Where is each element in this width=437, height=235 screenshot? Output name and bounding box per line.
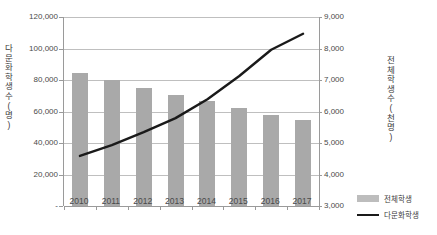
right-tick-label: 7,000 xyxy=(324,75,368,84)
left-tick-label: 100,000 xyxy=(14,44,58,53)
right-tick-label: 6,000 xyxy=(324,107,368,116)
chart-legend: 전체학생 다문화학생 xyxy=(357,193,419,225)
left-tick-mark xyxy=(59,206,63,207)
x-tick-mark xyxy=(96,206,97,210)
legend-item-line: 다문화학생 xyxy=(357,209,419,220)
x-tick-mark xyxy=(128,206,129,210)
left-tick-label: 60,000 xyxy=(14,107,58,116)
left-tick-label: 120,000 xyxy=(14,12,58,21)
x-tick-mark xyxy=(192,206,193,210)
x-tick-mark xyxy=(319,206,320,210)
legend-label-전체학생: 전체학생 xyxy=(384,193,412,204)
x-axis-label-2017: 2017 xyxy=(282,196,322,206)
left-axis-title: 다 문 화 학 생 수 ( 명 ) xyxy=(2,44,16,130)
legend-bar-swatch-icon xyxy=(357,195,379,202)
right-axis-title: 전 체 학 생 수 ( 천 명 ) xyxy=(384,56,398,142)
chart-container: 다 문 화 학 생 수 ( 명 ) 전 체 학 생 수 ( 천 명 ) -20,… xyxy=(0,0,437,235)
right-tick-label: 4,000 xyxy=(324,170,368,179)
left-tick-label: 80,000 xyxy=(14,75,58,84)
right-tick-label: 9,000 xyxy=(324,12,368,21)
left-tick-label: - xyxy=(14,201,58,210)
plot-area xyxy=(63,17,320,206)
right-tick-label: 5,000 xyxy=(324,138,368,147)
legend-item-bar: 전체학생 xyxy=(357,193,419,204)
left-tick-label: 20,000 xyxy=(14,170,58,179)
x-tick-mark xyxy=(255,206,256,210)
legend-line-swatch-icon xyxy=(357,214,379,216)
left-tick-label: 40,000 xyxy=(14,138,58,147)
x-tick-mark xyxy=(287,206,288,210)
x-tick-mark xyxy=(64,206,65,210)
right-tick-label: 8,000 xyxy=(324,44,368,53)
legend-label-다문화학생: 다문화학생 xyxy=(384,209,419,220)
x-tick-mark xyxy=(160,206,161,210)
line-series-다문화학생 xyxy=(64,17,319,206)
x-tick-mark xyxy=(223,206,224,210)
